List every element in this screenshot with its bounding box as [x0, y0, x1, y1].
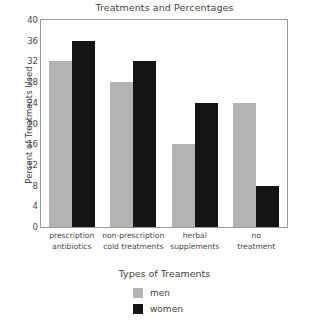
bar-men[interactable] — [172, 144, 195, 227]
bar-women[interactable] — [195, 103, 218, 227]
y-axis-tick-label: 28 — [2, 78, 38, 87]
y-axis-tick-label: 24 — [2, 99, 38, 108]
bars-layer — [41, 20, 287, 227]
legend-swatch-men — [133, 288, 143, 298]
bar-women[interactable] — [256, 186, 279, 227]
x-axis-tick-label-line: treatment — [220, 242, 294, 253]
y-axis-tick-label: 0 — [2, 223, 38, 232]
y-axis-tick-label: 36 — [2, 36, 38, 45]
bar-group — [49, 20, 95, 227]
chart-legend: menwomen — [40, 285, 289, 317]
y-axis-tick-label: 40 — [2, 16, 38, 25]
y-axis-tick-label: 32 — [2, 57, 38, 66]
y-axis-tick-label: 20 — [2, 119, 38, 128]
bar-group — [172, 20, 218, 227]
y-axis-tick-label: 4 — [2, 202, 38, 211]
y-axis-tick-labels: 4036322824201612840 — [0, 0, 38, 323]
x-axis-tick-label: notreatment — [220, 231, 294, 252]
legend-swatch-women — [133, 304, 143, 314]
bar-men[interactable] — [110, 82, 133, 227]
y-axis-tick-label: 8 — [2, 181, 38, 190]
legend-item-women[interactable]: women — [40, 301, 289, 317]
legend-label: men — [150, 288, 196, 298]
x-axis-tick-label-line: prescription — [49, 231, 94, 240]
y-axis-tick-label: 16 — [2, 140, 38, 149]
chart-title: Treatments and Percentages — [40, 2, 289, 13]
x-axis-tick-label-line: non-prescription — [102, 231, 164, 240]
y-axis-tick-label: 12 — [2, 161, 38, 170]
bar-women[interactable] — [133, 61, 156, 227]
bar-group — [233, 20, 279, 227]
legend-item-men[interactable]: men — [40, 285, 289, 301]
bar-men[interactable] — [49, 61, 72, 227]
legend-label: women — [150, 304, 196, 314]
x-axis-tick-labels: prescriptionantibioticsnon-prescriptionc… — [41, 231, 287, 257]
bar-chart: Treatments and Percentages Percent of Tr… — [0, 0, 310, 323]
x-axis-tick-label-line: no — [252, 231, 261, 240]
bar-women[interactable] — [72, 41, 95, 227]
bar-group — [110, 20, 156, 227]
x-axis-tick-label-line: herbal — [183, 231, 207, 240]
x-axis-title: Types of Treaments — [40, 268, 289, 279]
bar-men[interactable] — [233, 103, 256, 227]
